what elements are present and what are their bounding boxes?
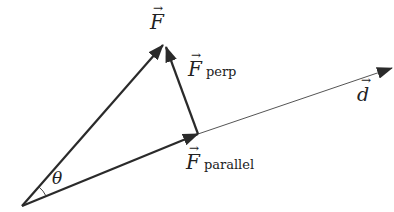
angle-label: θ xyxy=(52,168,62,188)
vector-arrow-icon: → xyxy=(189,141,199,155)
vector-arrow-icon: → xyxy=(153,1,163,15)
perp-force-label: →Fperp xyxy=(188,57,236,81)
force-vector xyxy=(22,45,163,206)
displacement-label: →d xyxy=(357,83,369,105)
force-label: →F xyxy=(150,10,164,34)
parallel-subscript: parallel xyxy=(204,157,254,172)
angle-arc xyxy=(39,187,46,196)
vector-arrow-icon: → xyxy=(361,73,371,87)
perp-subscript: perp xyxy=(206,64,237,79)
vector-arrow-icon: → xyxy=(191,48,201,62)
parallel-force-label: →Fparallel xyxy=(186,150,254,174)
parallel-force-vector xyxy=(22,134,198,206)
